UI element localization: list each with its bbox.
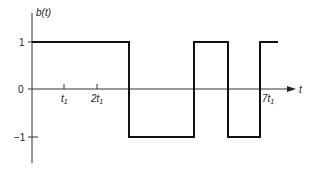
y-tick-label-0: 0 (18, 84, 24, 95)
x-axis-arrow-icon (287, 86, 296, 92)
y-tick-label-1: 1 (19, 37, 25, 48)
y-axis-label: b(t) (36, 7, 51, 18)
x-tick-label-7t1: 7t1 (262, 93, 274, 105)
x-axis-label: t (299, 84, 303, 95)
waveform-plot: b(t) t 1 0 −1 t1 2t1 7t1 (0, 0, 316, 170)
x-tick-label-2t1: 2t1 (90, 93, 103, 105)
y-tick-label-neg1: −1 (14, 132, 26, 143)
x-tick-label-t1: t1 (61, 93, 68, 105)
